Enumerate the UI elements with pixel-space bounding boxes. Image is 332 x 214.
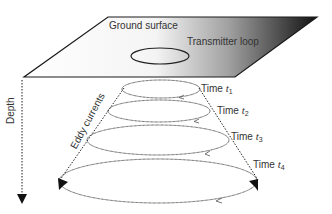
transmitter-loop-label: Transmitter loop — [187, 37, 259, 47]
eddy-ring-t3 — [87, 125, 229, 155]
time-t3-label: Time t3 — [231, 131, 263, 143]
eddy-ring-t2 — [108, 100, 210, 122]
eddy-current-cone-edges — [60, 88, 258, 180]
ground-surface-label: Ground surface — [109, 21, 178, 31]
time-t2-label: Time t2 — [217, 105, 249, 117]
eddy-current-rings — [59, 80, 257, 203]
depth-axis-arrow — [17, 80, 27, 204]
time-t1-label: Time t1 — [201, 83, 233, 95]
eddy-arrowhead-left — [58, 178, 68, 190]
time-t4-label: Time t4 — [253, 159, 285, 171]
eddy-current-diagram — [0, 0, 332, 214]
depth-label: Depth — [6, 97, 16, 124]
eddy-ring-t1 — [122, 80, 200, 98]
eddy-ring-t4 — [59, 159, 257, 203]
